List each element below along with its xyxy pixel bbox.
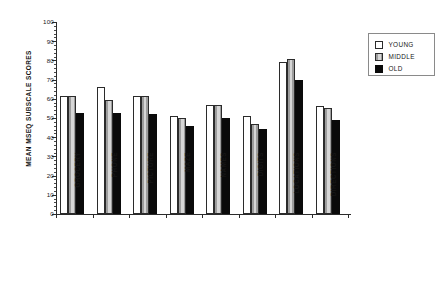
legend-item-young: YOUNG <box>375 39 434 51</box>
bar-directions-young <box>316 106 324 214</box>
x-axis-label-grocery: GROCERY <box>74 152 81 222</box>
x-axis-label-maze: MAZE <box>184 152 191 222</box>
legend-label: MIDDLE <box>389 53 415 61</box>
bar-picture-young <box>133 96 141 214</box>
bar-phone-young <box>97 87 105 214</box>
x-axis-label-names: NAMES <box>220 152 227 222</box>
legend-swatch-young <box>375 41 383 49</box>
x-axis-label-digits: DIGITS <box>257 152 264 222</box>
bar-locations-young <box>279 62 287 214</box>
x-axis-label-picture: PICTURE <box>147 152 154 222</box>
x-axis-tick <box>312 214 313 218</box>
bar-maze-young <box>170 116 178 214</box>
x-axis-tick <box>275 214 276 218</box>
x-axis-label-locations: LOCATIONS <box>293 152 300 222</box>
legend-label: YOUNG <box>389 41 414 49</box>
x-axis-label-directions: DIRECTIONS <box>330 152 337 222</box>
x-axis-tick <box>56 214 57 218</box>
y-axis-tick-label: 20 <box>32 172 54 179</box>
bar-grocery-young <box>60 96 68 214</box>
x-axis-tick <box>129 214 130 218</box>
y-axis-tick-label: 60 <box>32 95 54 102</box>
bar-names-young <box>206 105 214 214</box>
y-axis-tick-label: 0 <box>32 210 54 217</box>
x-axis-tick <box>348 214 349 218</box>
y-axis-tick-label: 80 <box>32 57 54 64</box>
legend-item-middle: MIDDLE <box>375 51 434 63</box>
legend-item-old: OLD <box>375 63 434 75</box>
x-axis-line <box>56 214 351 215</box>
y-axis-tick-label: 50 <box>32 114 54 121</box>
y-axis-tick-label: 100 <box>32 18 54 25</box>
legend-swatch-middle <box>375 53 383 61</box>
chart-legend: YOUNGMIDDLEOLD <box>368 33 435 76</box>
plot-area: 0102030405060708090100 <box>56 22 348 214</box>
legend-swatch-old <box>375 65 383 73</box>
y-axis-tick-label: 40 <box>32 134 54 141</box>
x-axis-tick <box>239 214 240 218</box>
y-axis-tick-label: 10 <box>32 191 54 198</box>
bar-digits-young <box>243 116 251 214</box>
y-axis-tick-label: 90 <box>32 38 54 45</box>
x-axis-tick <box>166 214 167 218</box>
y-axis-title: MEAN MSEQ SUBSCALE SCORES <box>25 34 32 184</box>
x-axis-tick <box>93 214 94 218</box>
x-axis-label-phone: PHONE <box>111 152 118 222</box>
y-axis-tick-label: 30 <box>32 153 54 160</box>
y-axis-tick-label: 70 <box>32 76 54 83</box>
x-axis-tick <box>202 214 203 218</box>
legend-label: OLD <box>389 65 403 73</box>
bar-chart: MEAN MSEQ SUBSCALE SCORES 01020304050607… <box>0 0 441 283</box>
